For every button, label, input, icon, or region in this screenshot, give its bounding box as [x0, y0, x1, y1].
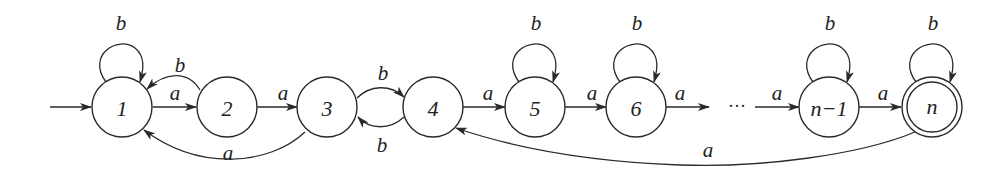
state-3: 3	[297, 77, 357, 137]
self-loop-5	[513, 44, 556, 82]
label-self-n: b	[928, 11, 939, 35]
self-loop-6	[614, 44, 657, 82]
state-4: 4	[403, 77, 463, 137]
self-loop-n	[910, 44, 953, 82]
label-3-to-1: a	[223, 141, 234, 165]
label-ellipsis-to-n-1: a	[772, 81, 783, 105]
state-label-5: 5	[530, 96, 541, 121]
label-3-to-4: b	[378, 61, 389, 85]
state-label-2: 2	[222, 96, 233, 121]
finite-automaton-diagram: b b b b b b a a a b b a a a ··· a a a 1	[0, 0, 1004, 175]
state-2: 2	[197, 77, 257, 137]
label-self-6: b	[632, 11, 643, 35]
label-n-1-to-n: a	[878, 81, 889, 105]
label-self-5: b	[531, 11, 542, 35]
label-5-to-6: a	[587, 81, 598, 105]
edge-4-to-3	[358, 117, 404, 127]
state-label-n: n	[927, 94, 938, 119]
state-label-1: 1	[117, 96, 128, 121]
state-n-1: n−1	[799, 77, 859, 137]
state-5: 5	[505, 77, 565, 137]
label-self-1: b	[116, 11, 127, 35]
label-4-to-3: b	[377, 133, 388, 157]
state-6: 6	[606, 77, 666, 137]
ellipsis: ···	[728, 96, 746, 116]
label-2-to-3: a	[278, 81, 289, 105]
self-loop-1	[100, 44, 143, 82]
edge-3-to-4	[357, 88, 404, 98]
self-loop-n-1	[807, 44, 850, 82]
state-label-4: 4	[428, 96, 439, 121]
label-n-to-4: a	[703, 138, 714, 162]
state-label-n-1: n−1	[811, 96, 848, 121]
state-label-3: 3	[321, 96, 333, 121]
state-label-6: 6	[631, 96, 642, 121]
state-n-accepting: n	[902, 77, 962, 137]
label-self-n-1: b	[825, 11, 836, 35]
state-1: 1	[92, 77, 152, 137]
label-2-to-1: b	[175, 53, 186, 77]
label-6-to-ellipsis: a	[675, 81, 686, 105]
label-1-to-2: a	[170, 81, 181, 105]
label-4-to-5: a	[483, 81, 494, 105]
